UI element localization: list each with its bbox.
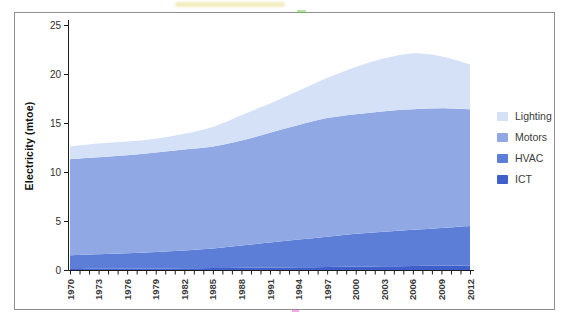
area-bands <box>70 53 470 270</box>
svg-text:1979: 1979 <box>150 279 161 300</box>
motors-swatch-icon <box>497 133 508 142</box>
svg-text:10: 10 <box>50 167 62 178</box>
y-tick-labels: 0510152025 <box>50 20 62 276</box>
legend-item-motors: Motors <box>497 131 552 143</box>
svg-text:2000: 2000 <box>350 279 361 300</box>
svg-text:20: 20 <box>50 69 62 80</box>
svg-text:1982: 1982 <box>179 279 190 300</box>
chart-legend: Lighting Motors HVAC ICT <box>497 110 552 185</box>
hvac-swatch-icon <box>497 154 508 163</box>
figure-screenshot: 0510152025197019731976197919821985198819… <box>0 0 564 324</box>
svg-text:25: 25 <box>50 20 62 31</box>
x-tick-labels: 1970197319761979198219851988199119941997… <box>65 278 476 300</box>
svg-text:0: 0 <box>55 265 61 276</box>
svg-text:1976: 1976 <box>122 279 133 300</box>
svg-text:2012: 2012 <box>465 279 476 300</box>
svg-text:1997: 1997 <box>322 279 333 300</box>
lighting-swatch-icon <box>497 112 508 121</box>
legend-item-lighting: Lighting <box>497 110 552 122</box>
legend-item-hvac: HVAC <box>497 152 552 164</box>
legend-label-motors: Motors <box>515 131 547 143</box>
svg-text:1991: 1991 <box>265 278 276 300</box>
svg-text:2009: 2009 <box>436 279 447 300</box>
svg-text:2003: 2003 <box>379 279 390 300</box>
svg-text:2006: 2006 <box>407 279 418 300</box>
ict-swatch-icon <box>497 175 508 184</box>
svg-text:5: 5 <box>55 216 61 227</box>
svg-text:1988: 1988 <box>236 279 247 300</box>
legend-item-ict: ICT <box>497 173 552 185</box>
legend-label-hvac: HVAC <box>515 152 543 164</box>
legend-label-ict: ICT <box>515 173 532 185</box>
y-axis-title: Electricity (mtoe) <box>23 102 35 191</box>
svg-text:1970: 1970 <box>65 279 76 300</box>
stacked-area-chart: 0510152025197019731976197919821985198819… <box>0 0 564 324</box>
svg-text:1985: 1985 <box>207 278 218 300</box>
legend-label-lighting: Lighting <box>515 110 552 122</box>
svg-text:15: 15 <box>50 118 62 129</box>
svg-text:1973: 1973 <box>93 279 104 300</box>
svg-text:1994: 1994 <box>293 278 304 300</box>
